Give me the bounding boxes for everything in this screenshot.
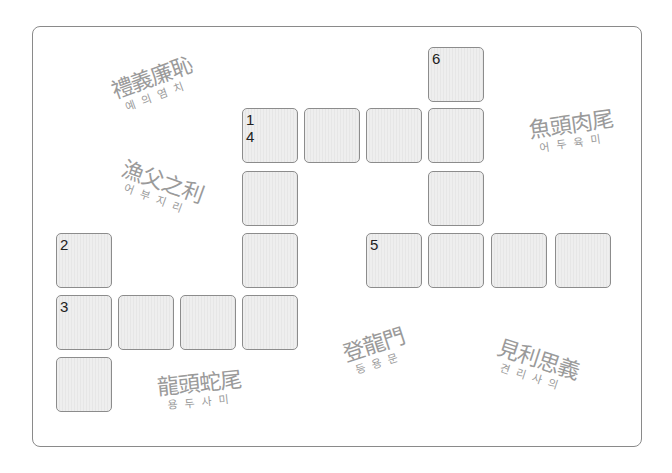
puzzle-cell[interactable] bbox=[304, 108, 360, 163]
puzzle-cell[interactable] bbox=[428, 171, 484, 226]
puzzle-cell[interactable] bbox=[242, 295, 298, 350]
puzzle-cell-5-start[interactable]: 5 bbox=[366, 233, 422, 288]
puzzle-cell[interactable] bbox=[180, 295, 236, 350]
puzzle-cell[interactable] bbox=[56, 357, 112, 412]
puzzle-cell[interactable] bbox=[428, 233, 484, 288]
clue-number: 2 bbox=[60, 236, 68, 253]
clue-number: 5 bbox=[370, 236, 378, 253]
puzzle-cell-6-down-start[interactable]: 6 bbox=[428, 47, 484, 102]
puzzle-cell-3-start[interactable]: 3 bbox=[56, 295, 112, 350]
clue-number: 6 bbox=[432, 50, 440, 67]
puzzle-cell-1-4-start[interactable]: 1 4 bbox=[242, 108, 298, 163]
puzzle-cell[interactable] bbox=[242, 171, 298, 226]
puzzle-cell[interactable] bbox=[118, 295, 174, 350]
puzzle-cell[interactable] bbox=[242, 233, 298, 288]
puzzle-cell-2-start[interactable]: 2 bbox=[56, 233, 112, 288]
puzzle-cell[interactable] bbox=[366, 108, 422, 163]
puzzle-cell[interactable] bbox=[491, 233, 547, 288]
clue-number: 3 bbox=[60, 298, 68, 315]
puzzle-cell[interactable] bbox=[555, 233, 611, 288]
puzzle-cell[interactable] bbox=[428, 108, 484, 163]
clue-number: 1 4 bbox=[246, 111, 254, 145]
